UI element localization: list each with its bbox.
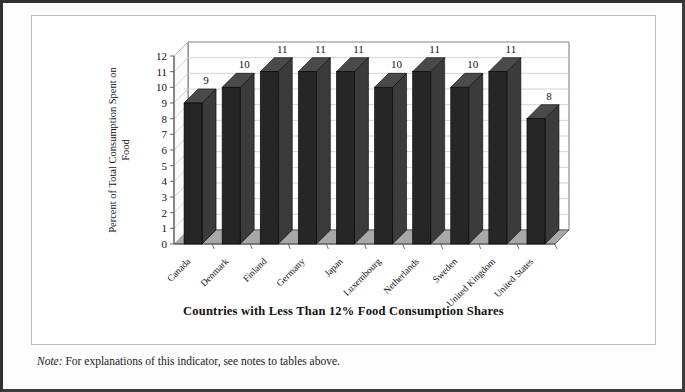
note-prefix: Note:: [37, 355, 63, 367]
y-axis-tick-label: 7: [162, 128, 168, 140]
bar-value-label: 11: [277, 43, 288, 55]
bar-front-face[interactable]: [413, 72, 431, 244]
y-axis-tick-label: 11: [156, 66, 167, 78]
note-text: For explanations of this indicator, see …: [63, 355, 340, 367]
bar-front-face[interactable]: [527, 119, 545, 244]
x-axis-tick: [326, 244, 328, 249]
x-axis-tick: [555, 244, 557, 249]
x-axis-tick: [517, 244, 519, 249]
bar-value-label: 11: [506, 43, 517, 55]
x-axis-tick: [441, 244, 443, 249]
x-axis-category-label: Denmark: [198, 256, 230, 288]
x-axis-tick: [403, 244, 405, 249]
y-axis-tick-label: 5: [162, 160, 168, 172]
bar-front-face[interactable]: [336, 72, 354, 244]
bar-value-label: 11: [353, 43, 364, 55]
bar-side-face: [507, 58, 521, 244]
x-axis-tick: [212, 244, 214, 249]
bar-front-face[interactable]: [184, 103, 202, 244]
page-root: 01234567891011129Canada10Denmark11Finlan…: [0, 0, 685, 392]
y-axis-tick-label: 10: [156, 81, 168, 93]
y-axis-title-line-2: Food: [120, 138, 131, 160]
bar-side-face: [469, 73, 483, 244]
x-axis-category-label: Sweden: [431, 256, 460, 285]
x-axis-category-label: Netherlands: [382, 256, 422, 296]
bar-value-label: 10: [467, 58, 479, 70]
y-axis-tick-label: 2: [162, 207, 168, 219]
bar-side-face: [202, 89, 216, 244]
bar-chart-3d: 01234567891011129Canada10Denmark11Finlan…: [32, 16, 657, 346]
x-axis-tick: [250, 244, 252, 249]
bar-side-face: [545, 105, 559, 244]
bar-side-face: [316, 58, 330, 244]
y-axis-tick-label: 0: [162, 238, 168, 250]
bar-value-label: 8: [546, 90, 552, 102]
figure-frame: 01234567891011129Canada10Denmark11Finlan…: [31, 15, 656, 345]
x-axis-category-label: Japan: [322, 256, 345, 279]
x-axis-category-label: United States: [492, 256, 535, 299]
x-axis-tick: [288, 244, 290, 249]
bar-value-label: 10: [391, 58, 403, 70]
x-axis-title: Countries with Less Than 12% Food Consum…: [32, 304, 655, 319]
bar-side-face: [354, 58, 368, 244]
y-axis-tick-label: 1: [162, 222, 168, 234]
y-axis-tick-label: 6: [162, 144, 168, 156]
bar-side-face: [240, 73, 254, 244]
chart-plot-area: 01234567891011129Canada10Denmark11Finlan…: [32, 16, 657, 346]
x-axis-category-label: Luxembourg: [341, 256, 383, 298]
y-axis-tick-label: 8: [162, 113, 168, 125]
x-axis-category-label: Finland: [241, 256, 269, 284]
bar-value-label: 11: [315, 43, 326, 55]
bar-value-label: 9: [203, 74, 209, 86]
bar-side-face: [278, 58, 292, 244]
bar-side-face: [393, 73, 407, 244]
y-axis-title-line-1: Percent of Total Consumption Spent on: [107, 66, 118, 232]
bar-front-face[interactable]: [298, 72, 316, 244]
bar-side-face: [431, 58, 445, 244]
x-axis-category-label: Germany: [275, 256, 307, 288]
y-axis-tick-label: 3: [162, 191, 168, 203]
x-axis-tick: [479, 244, 481, 249]
bar-front-face[interactable]: [375, 87, 393, 244]
y-axis-tick-label: 9: [162, 97, 168, 109]
bar-value-label: 11: [429, 43, 440, 55]
figure-note: Note: For explanations of this indicator…: [37, 355, 340, 367]
y-axis-title: Percent of Total Consumption Spent onFoo…: [107, 66, 131, 232]
x-axis-tick: [365, 244, 367, 249]
bar-front-face[interactable]: [222, 87, 240, 244]
y-axis-tick-label: 12: [156, 50, 167, 62]
bar-front-face[interactable]: [489, 72, 507, 244]
x-axis-category-label: Canada: [165, 256, 193, 284]
bar-front-face[interactable]: [451, 87, 469, 244]
y-axis-tick-label: 4: [162, 175, 168, 187]
bar-value-label: 10: [239, 58, 251, 70]
bar-front-face[interactable]: [260, 72, 278, 244]
